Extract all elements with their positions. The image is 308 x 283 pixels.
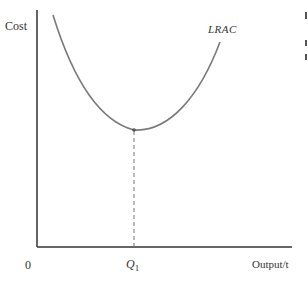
edge-mark bbox=[305, 54, 307, 60]
x-axis-label: Output/t bbox=[252, 259, 289, 270]
edge-mark bbox=[305, 40, 307, 46]
q1-label-main: Q bbox=[126, 257, 135, 271]
cost-chart bbox=[0, 0, 308, 283]
origin-label: 0 bbox=[25, 259, 31, 271]
curve-label: LRAC bbox=[208, 24, 237, 35]
y-axis-label: Cost bbox=[5, 20, 27, 32]
q1-label-sub: 1 bbox=[135, 263, 140, 273]
lrac-curve bbox=[53, 15, 220, 130]
q1-label: Q1 bbox=[126, 258, 139, 273]
edge-mark bbox=[305, 12, 307, 19]
